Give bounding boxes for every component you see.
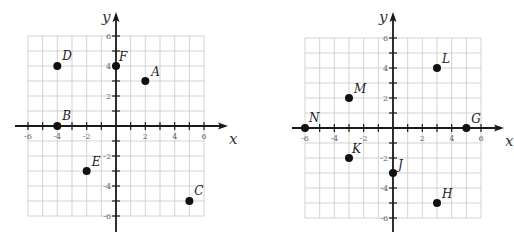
x-axis-label: x — [229, 130, 238, 148]
y-axis-label: y — [378, 8, 388, 26]
x-tick-label: 6 — [201, 132, 206, 141]
point-label: C — [194, 184, 203, 198]
y-tick-label: -4 — [380, 184, 388, 193]
y-tick-label: 4 — [383, 64, 388, 73]
point-label: A — [150, 65, 160, 79]
coordinate-planes-figure: -6-4-2246642-2-4-6xyABCDEF-6-4-2246642-2… — [0, 0, 514, 238]
point-A: A — [141, 65, 160, 85]
point-dot — [83, 167, 91, 175]
coordinate-planes-svg: -6-4-2246642-2-4-6xyABCDEF-6-4-2246642-2… — [0, 0, 514, 238]
point-dot — [433, 199, 441, 207]
point-label: L — [441, 52, 450, 66]
point-dot — [141, 77, 149, 85]
point-label: B — [61, 109, 71, 123]
x-tick-label: -4 — [330, 134, 338, 143]
point-K: K — [345, 142, 362, 162]
point-dot — [433, 64, 441, 72]
point-dot — [301, 124, 309, 132]
point-C: C — [185, 184, 203, 205]
point-J: J — [389, 158, 404, 177]
point-L: L — [433, 52, 450, 72]
point-dot — [53, 62, 61, 70]
x-tick-label: 4 — [172, 132, 177, 141]
x-tick-label: 6 — [478, 134, 483, 143]
coordinate-plane-1: -6-4-2246642-2-4-6xyABCDEF — [15, 8, 238, 232]
point-label: D — [61, 49, 72, 63]
point-dot — [389, 169, 397, 177]
y-tick-label: -6 — [103, 212, 111, 221]
y-tick-label: -6 — [380, 214, 388, 223]
coordinate-plane-2: -6-4-2246642-2-4-6xyGHJKLMN — [292, 8, 514, 232]
point-label: N — [308, 111, 320, 125]
x-tick-label: -4 — [53, 132, 61, 141]
y-tick-label: -2 — [103, 152, 111, 161]
x-tick-label: -2 — [83, 132, 91, 141]
x-axis-label: x — [505, 132, 514, 150]
point-dot — [185, 197, 193, 205]
y-tick-label: 6 — [106, 32, 111, 41]
x-tick-label: -6 — [24, 132, 32, 141]
y-tick-label: 2 — [383, 94, 388, 103]
point-label: M — [353, 82, 367, 96]
point-E: E — [83, 155, 101, 175]
point-D: D — [53, 49, 72, 70]
point-F: F — [112, 50, 128, 70]
point-label: J — [395, 158, 404, 172]
y-tick-label: 2 — [106, 92, 111, 101]
point-dot — [53, 122, 61, 130]
point-G: G — [462, 112, 481, 132]
x-tick-label: 4 — [449, 134, 454, 143]
x-tick-label: 2 — [143, 132, 148, 141]
point-label: F — [118, 50, 128, 64]
point-label: H — [441, 187, 453, 201]
y-tick-label: 6 — [383, 34, 388, 43]
y-axis-label: y — [101, 8, 111, 26]
y-tick-label: -4 — [103, 182, 111, 191]
point-dot — [462, 124, 470, 132]
y-tick-label: -2 — [380, 154, 388, 163]
y-tick-label: 4 — [106, 62, 111, 71]
point-label: E — [91, 155, 101, 169]
point-label: K — [351, 142, 362, 156]
point-dot — [345, 94, 353, 102]
point-H: H — [433, 187, 453, 207]
point-label: G — [471, 112, 481, 126]
x-tick-label: -6 — [301, 134, 309, 143]
x-tick-label: 2 — [420, 134, 425, 143]
